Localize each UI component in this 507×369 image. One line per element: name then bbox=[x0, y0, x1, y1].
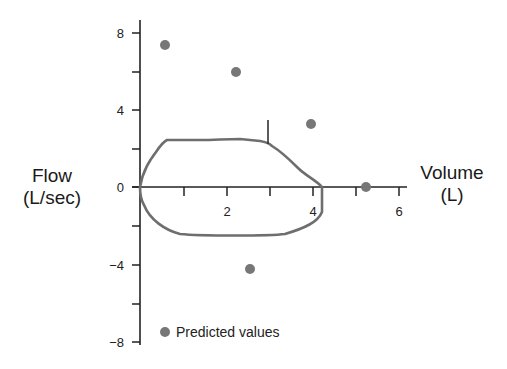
y-axis-title: Flow (L/sec) bbox=[12, 165, 92, 209]
y-tick-label: 8 bbox=[117, 26, 124, 41]
y-axis-title-line1: Flow bbox=[12, 165, 92, 187]
x-tick-label: 4 bbox=[309, 204, 316, 219]
predicted-points bbox=[160, 40, 371, 274]
predicted-point bbox=[361, 182, 371, 192]
x-axis-title-line1: Volume bbox=[412, 162, 492, 184]
legend: Predicted values bbox=[160, 324, 280, 340]
legend-dot-icon bbox=[160, 327, 170, 337]
predicted-point bbox=[306, 119, 316, 129]
x-axis-title: Volume (L) bbox=[412, 162, 492, 206]
x-tick-label: 6 bbox=[395, 204, 402, 219]
legend-label: Predicted values bbox=[176, 324, 280, 340]
y-tick-label: 4 bbox=[117, 103, 124, 118]
predicted-point bbox=[231, 67, 241, 77]
predicted-point bbox=[160, 40, 170, 50]
y-tick-label: −8 bbox=[109, 335, 124, 350]
predicted-point bbox=[245, 264, 255, 274]
tick-labels: 8 4 0 −4 −8 2 4 6 bbox=[109, 26, 402, 350]
y-tick-label: −4 bbox=[109, 258, 124, 273]
y-tick-label: 0 bbox=[117, 180, 124, 195]
x-tick-label: 2 bbox=[223, 204, 230, 219]
x-axis-title-line2: (L) bbox=[412, 184, 492, 206]
y-axis-title-line2: (L/sec) bbox=[12, 187, 92, 209]
